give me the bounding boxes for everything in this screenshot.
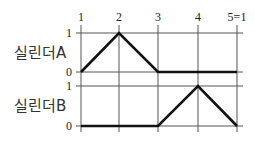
step-label-4: 4 bbox=[195, 10, 201, 24]
cylinder-b-trace bbox=[81, 86, 237, 126]
step-label-3: 3 bbox=[155, 10, 161, 24]
cylinder-a-label: 실린더A bbox=[14, 44, 67, 62]
cylinder-displacement-diagram: 1 2 3 4 5=1 1 0 실린더A 1 0 실린더B bbox=[0, 0, 255, 141]
cylinder-a-high-label: 1 bbox=[66, 26, 72, 40]
cylinder-a-trace bbox=[81, 33, 237, 72]
vertical-grid bbox=[81, 25, 237, 132]
step-label-1: 1 bbox=[78, 10, 84, 24]
cylinder-b-low-label: 0 bbox=[66, 119, 72, 133]
cylinder-b-panel: 1 0 실린더B bbox=[14, 79, 243, 133]
step-label-2: 2 bbox=[116, 10, 122, 24]
step-labels: 1 2 3 4 5=1 bbox=[78, 10, 246, 24]
cylinder-b-high-label: 1 bbox=[66, 79, 72, 93]
step-label-5: 5=1 bbox=[228, 10, 247, 24]
cylinder-a-panel: 1 0 실린더A bbox=[14, 26, 243, 79]
cylinder-a-low-label: 0 bbox=[66, 65, 72, 79]
cylinder-b-label: 실린더B bbox=[14, 97, 66, 115]
